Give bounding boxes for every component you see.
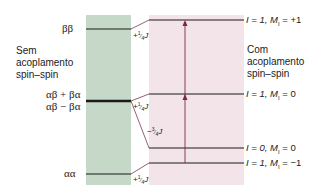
label-I1-M-1: I = 1, MI = −1 xyxy=(246,157,301,173)
label-I0-M0: I = 0, MI = 0 xyxy=(246,142,296,158)
label-I1-M+1: I = 1, MI = +1 xyxy=(246,14,301,30)
shift-aa: +1⁄4J xyxy=(133,172,148,188)
arrowhead-top-icon xyxy=(183,20,188,26)
label-alpha-alpha: αα xyxy=(64,168,76,179)
label-beta-beta: ββ xyxy=(62,23,73,34)
coupled-title: Com acoplamento spin–spin xyxy=(247,44,304,80)
shift-ab-plus: +1⁄4J xyxy=(133,99,148,115)
uncoupled-title: Sem acoplamento spin–spin xyxy=(16,45,73,81)
shift-ab-minus: −3⁄4J xyxy=(147,124,162,140)
label-ab-minus-ba: αβ − βα xyxy=(46,101,80,112)
shift-bb: +1⁄4J xyxy=(133,28,148,44)
arrowhead-middle-icon xyxy=(183,94,188,100)
label-ab-plus-ba: αβ + βα xyxy=(46,89,80,100)
label-I1-M0: I = 1, MI = 0 xyxy=(246,88,296,104)
